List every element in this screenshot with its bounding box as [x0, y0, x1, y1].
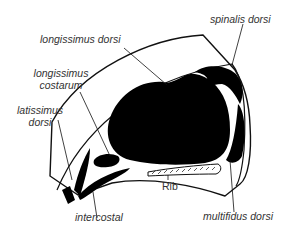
- label-spinalis-dorsi: spinalis dorsi: [210, 13, 271, 25]
- label-latissimus-dorsi-line2: dorsi: [14, 116, 66, 128]
- label-longissimus-costarum-line2: costarum: [30, 79, 92, 91]
- label-intercostal: intercostal: [75, 211, 123, 223]
- label-rib: Rib: [162, 180, 178, 192]
- label-longissimus-costarum-line1: longissimus: [30, 67, 92, 79]
- label-multifidus-dorsi: multifidus dorsi: [203, 210, 273, 222]
- label-latissimus-dorsi: latissimus dorsi: [14, 104, 66, 128]
- label-longissimus-dorsi: longissimus dorsi: [40, 33, 121, 45]
- label-longissimus-costarum: longissimus costarum: [30, 67, 92, 91]
- label-latissimus-dorsi-line1: latissimus: [14, 104, 66, 116]
